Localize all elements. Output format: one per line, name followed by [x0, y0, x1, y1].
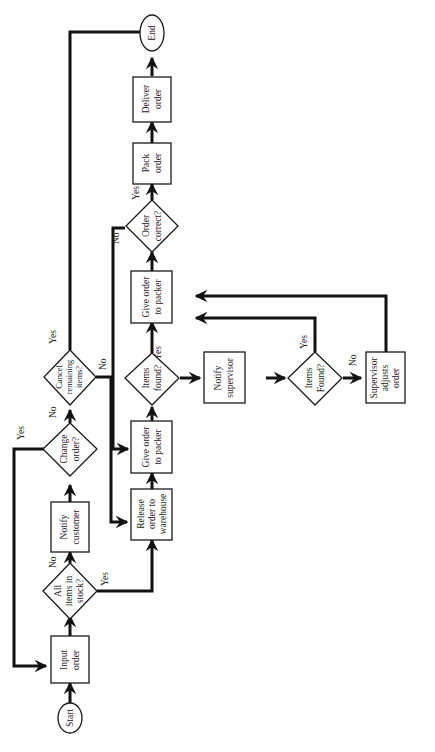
label-found2-yes: Yes [299, 335, 309, 349]
node-adjusts-line2: adjusts [380, 365, 390, 392]
node-found2-line1: Items [304, 367, 314, 388]
node-packer1-line1: Give order [141, 426, 151, 468]
node-notify-supervisor-line1: Notify [213, 365, 223, 390]
node-adjusts-line1: Supervisor [369, 357, 379, 399]
node-correct-line1: Order [141, 214, 151, 237]
label-cancel-yes: Yes [48, 330, 58, 344]
node-order-correct: Order correct? [126, 200, 178, 252]
node-deliver-line1: Deliver [141, 84, 151, 113]
node-found1-line2: found? [153, 365, 163, 391]
node-adjusts-line3: order [391, 367, 401, 388]
node-pack-order: Pack order [133, 143, 171, 184]
node-change-order: Change order? [43, 423, 97, 476]
node-pack-line2: order [153, 152, 163, 173]
node-release-order: Release order to warehouse [131, 489, 172, 540]
node-notify-supervisor-line2: supervisor [225, 357, 235, 397]
label-stock-no: No [48, 556, 58, 568]
node-supervisor-adjusts: Supervisor adjusts order [366, 352, 405, 403]
node-found2-line2: Found? [316, 364, 326, 393]
label-correct-no: No [111, 232, 121, 244]
label-change-yes: Yes [16, 426, 26, 440]
label-found2-no: No [348, 354, 358, 366]
node-correct-line2: correct? [153, 211, 163, 242]
node-release-line2: order to [147, 499, 157, 529]
node-notify-customer-line1: Notify [59, 514, 69, 539]
node-all-in-stock: All items in stock? [43, 563, 97, 619]
node-notify-customer: Notify customer [51, 502, 89, 552]
node-give-packer-2: Give order to packer [131, 271, 172, 323]
node-end-label: End [147, 25, 157, 41]
node-change-line2: order? [71, 437, 81, 461]
node-input-order-line1: Input [59, 650, 69, 670]
edge-adjusts-to-packer2 [196, 296, 386, 352]
node-cancel-remaining: Cancel remaining items? [44, 350, 96, 405]
node-stock-line3: stock? [75, 579, 85, 603]
node-found1-line1: Items [141, 367, 151, 388]
label-change-no: No [48, 406, 58, 418]
node-release-line1: Release [136, 499, 146, 529]
node-deliver-order: Deliver order [133, 77, 171, 122]
node-pack-line1: Pack [141, 154, 151, 173]
node-release-line3: warehouse [158, 494, 168, 535]
node-cancel-line2: remaining [64, 359, 74, 394]
node-end: End [140, 15, 164, 51]
node-deliver-line2: order [153, 88, 163, 109]
node-start: Start [58, 703, 82, 733]
edge-correct-no-to-packer1 [113, 228, 128, 449]
node-packer2-line1: Give order [141, 276, 151, 318]
node-cancel-line3: items? [74, 366, 84, 388]
node-packer1-line2: to packer [153, 429, 163, 465]
edge-found2-yes-to-packer2 [196, 318, 315, 352]
node-items-found-1: Items found? [125, 353, 179, 405]
node-start-label: Start [65, 709, 75, 727]
node-items-found-2: Items Found? [288, 352, 342, 405]
node-packer2-line2: to packer [153, 279, 163, 315]
node-change-line1: Change [59, 434, 69, 463]
label-correct-yes: Yes [131, 186, 141, 200]
node-stock-line2: items in [64, 576, 74, 607]
node-give-packer-1: Give order to packer [131, 421, 172, 473]
edge-change-yes-to-input [14, 449, 46, 666]
label-stock-yes: Yes [100, 572, 110, 586]
node-stock-line1: All [53, 585, 63, 598]
flowchart-diagram: No Yes Yes No Yes No No Yes Yes No Yes N… [0, 0, 435, 752]
node-cancel-line1: Cancel [54, 365, 64, 389]
node-notify-customer-line2: customer [71, 509, 81, 545]
node-input-order-line2: order [71, 649, 81, 670]
label-cancel-no: No [98, 358, 108, 370]
node-input-order: Input order [51, 636, 89, 683]
node-notify-supervisor: Notify supervisor [204, 352, 245, 403]
